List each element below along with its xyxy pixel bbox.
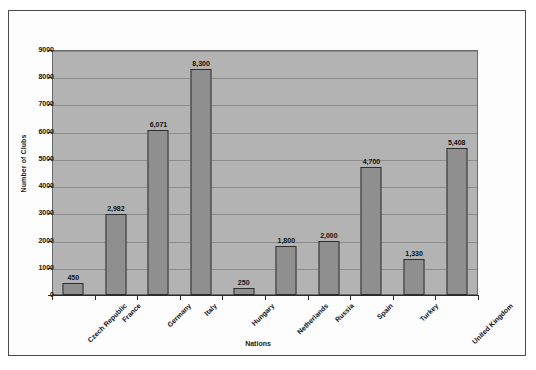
bar-group: 450 [52,50,95,295]
bar-value-label: 6,071 [150,121,168,128]
bar[interactable] [404,259,425,295]
bar[interactable] [148,130,169,295]
x-tick-label: Germany [165,302,191,328]
bar[interactable] [233,288,254,295]
bar-value-label: 1,800 [278,237,296,244]
bar-value-label: 4,700 [363,158,381,165]
x-tick-mark [180,296,181,300]
bars-layer: 4502,9826,0718,3002501,8002,0004,7001,33… [52,50,478,295]
bar[interactable] [361,167,382,295]
bar-chart: Number of Clubs 900080007000600050004000… [8,10,526,356]
bar-group: 250 [222,50,265,295]
bar-group: 6,071 [137,50,180,295]
bar-group: 8,300 [180,50,223,295]
x-tick-mark [435,296,436,300]
x-tick-mark [137,296,138,300]
x-tick-mark [350,296,351,300]
x-tick-label: United Kingdom [471,302,514,345]
x-tick-mark [308,296,309,300]
x-tick-label: Czech Republic [87,302,129,344]
bar-value-label: 250 [238,279,250,286]
x-tick-label: Netherlands [296,302,330,336]
x-tick-mark [52,296,53,300]
bar-value-label: 2,000 [320,232,338,239]
bar-value-label: 1,330 [405,250,423,257]
bar[interactable] [191,69,212,295]
x-tick-label: Turkey [419,302,440,323]
bar[interactable] [318,241,339,295]
bar-group: 1,330 [393,50,436,295]
bar-value-label: 2,982 [107,205,125,212]
bar-value-label: 450 [67,274,79,281]
bar[interactable] [276,246,297,295]
x-tick-label: Spain [375,302,393,320]
chart-page: Number of Clubs 900080007000600050004000… [0,0,536,370]
bar-group: 1,800 [265,50,308,295]
bar-group: 2,000 [308,50,351,295]
x-tick-mark [95,296,96,300]
x-tick-label: Italy [203,302,218,317]
bar-group: 5,408 [435,50,478,295]
x-tick-mark [222,296,223,300]
bar-value-label: 5,408 [448,139,466,146]
bar[interactable] [105,214,126,295]
bar[interactable] [63,283,84,295]
x-tick-label: Russia [334,302,355,323]
x-axis-title: Nations [8,340,508,347]
x-tick-mark [478,296,479,300]
x-tick-label: Hungary [250,302,275,327]
bar[interactable] [446,148,467,295]
x-tick-mark [265,296,266,300]
x-tick-mark [393,296,394,300]
bar-value-label: 8,300 [192,60,210,67]
bar-group: 2,982 [95,50,138,295]
bar-group: 4,700 [350,50,393,295]
